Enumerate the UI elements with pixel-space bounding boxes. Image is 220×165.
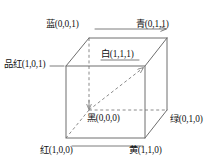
vertex-label-blue: 蓝(0,0,1) [46,20,79,29]
edge-blue-magenta [66,38,89,66]
leader-lines-group [50,29,166,146]
vertex-label-white: 白(1,1,1) [101,50,134,59]
edge-black-red [66,110,89,138]
rgb-color-cube-figure: 蓝(0,0,1) 青(0,1,1) 品红(1,0,1) 白(1,1,1) 黑(0… [0,0,220,165]
vertex-label-cyan: 青(0,1,1) [136,20,169,29]
vertex-label-magenta: 品红(1,0,1) [4,60,45,69]
cube-drawing [0,0,220,165]
vertex-label-red: 红(1,0,0) [40,146,73,155]
edge-cyan-white [145,38,167,66]
front-face-rect [66,66,145,138]
vertex-label-black: 黑(0,0,0) [87,114,120,123]
vertex-label-green: 绿(0,1,0) [170,115,203,124]
vertex-label-yellow: 黄(1,1,0) [129,146,162,155]
edge-green-yellow [145,110,167,138]
edge-black-white-diagonal [89,68,143,110]
